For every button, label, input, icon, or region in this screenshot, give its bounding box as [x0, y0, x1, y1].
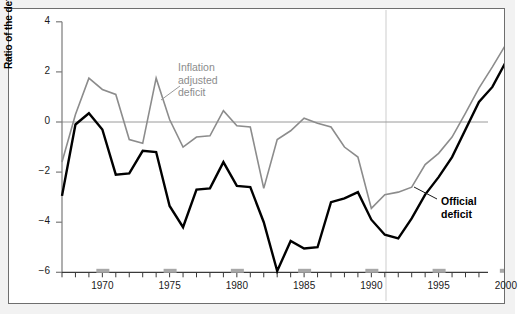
chart-frame: Ratio of the deficit to GDP (percent) 42…	[8, 8, 505, 304]
x-tick-year-marker	[500, 269, 504, 273]
x-tick-year-marker	[298, 269, 311, 273]
series-line-inflation-adjusted-deficit	[62, 44, 504, 208]
y-tick-label: −2	[26, 165, 50, 176]
x-tick-year-marker	[433, 269, 446, 273]
x-tick-year-marker	[96, 269, 109, 273]
y-tick-label: 0	[26, 115, 50, 126]
x-tick-year-marker	[365, 269, 378, 273]
x-tick-label: 2000	[486, 280, 522, 291]
y-tick-label: −4	[26, 215, 50, 226]
x-tick-year-marker	[231, 269, 244, 273]
inflation-adjusted-deficit-label: Inflation adjusted deficit	[178, 61, 218, 99]
chart-plot-area	[9, 9, 504, 303]
x-tick-label: 1990	[351, 280, 391, 291]
official-label-leader-line	[414, 187, 437, 199]
x-tick-label: 1970	[82, 280, 122, 291]
x-tick-label: 1995	[419, 280, 459, 291]
y-tick-label: 4	[26, 15, 50, 26]
y-axis-title: Ratio of the deficit to GDP (percent)	[3, 0, 14, 69]
y-tick-label: −6	[26, 265, 50, 276]
official-deficit-label: Official deficit	[441, 195, 477, 220]
y-tick-label: 2	[26, 65, 50, 76]
x-tick-year-marker	[164, 269, 177, 273]
x-tick-label: 1985	[284, 280, 324, 291]
x-tick-label: 1980	[217, 280, 257, 291]
x-tick-label: 1975	[150, 280, 190, 291]
series-line-official-deficit	[62, 62, 504, 271]
